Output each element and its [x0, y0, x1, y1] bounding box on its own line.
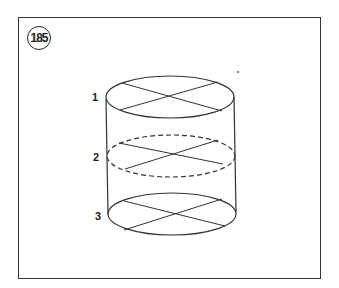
section-1-ellipse [106, 76, 234, 118]
section-1-diagonal-a [122, 83, 222, 111]
cylinder-diagram [0, 0, 339, 288]
section-label-3: 3 [95, 210, 101, 222]
section-2-diagonal-b [125, 140, 218, 169]
section-3-diagonal-b [124, 199, 222, 230]
section-label-1: 1 [92, 91, 98, 103]
section-3-diagonal-a [124, 201, 225, 226]
section-2-ellipse-dashed [107, 135, 235, 177]
speck-dot [237, 71, 239, 73]
cylinder-left-wall [106, 99, 108, 214]
section-label-2: 2 [93, 151, 99, 163]
section-2-diagonal-a [119, 143, 223, 164]
